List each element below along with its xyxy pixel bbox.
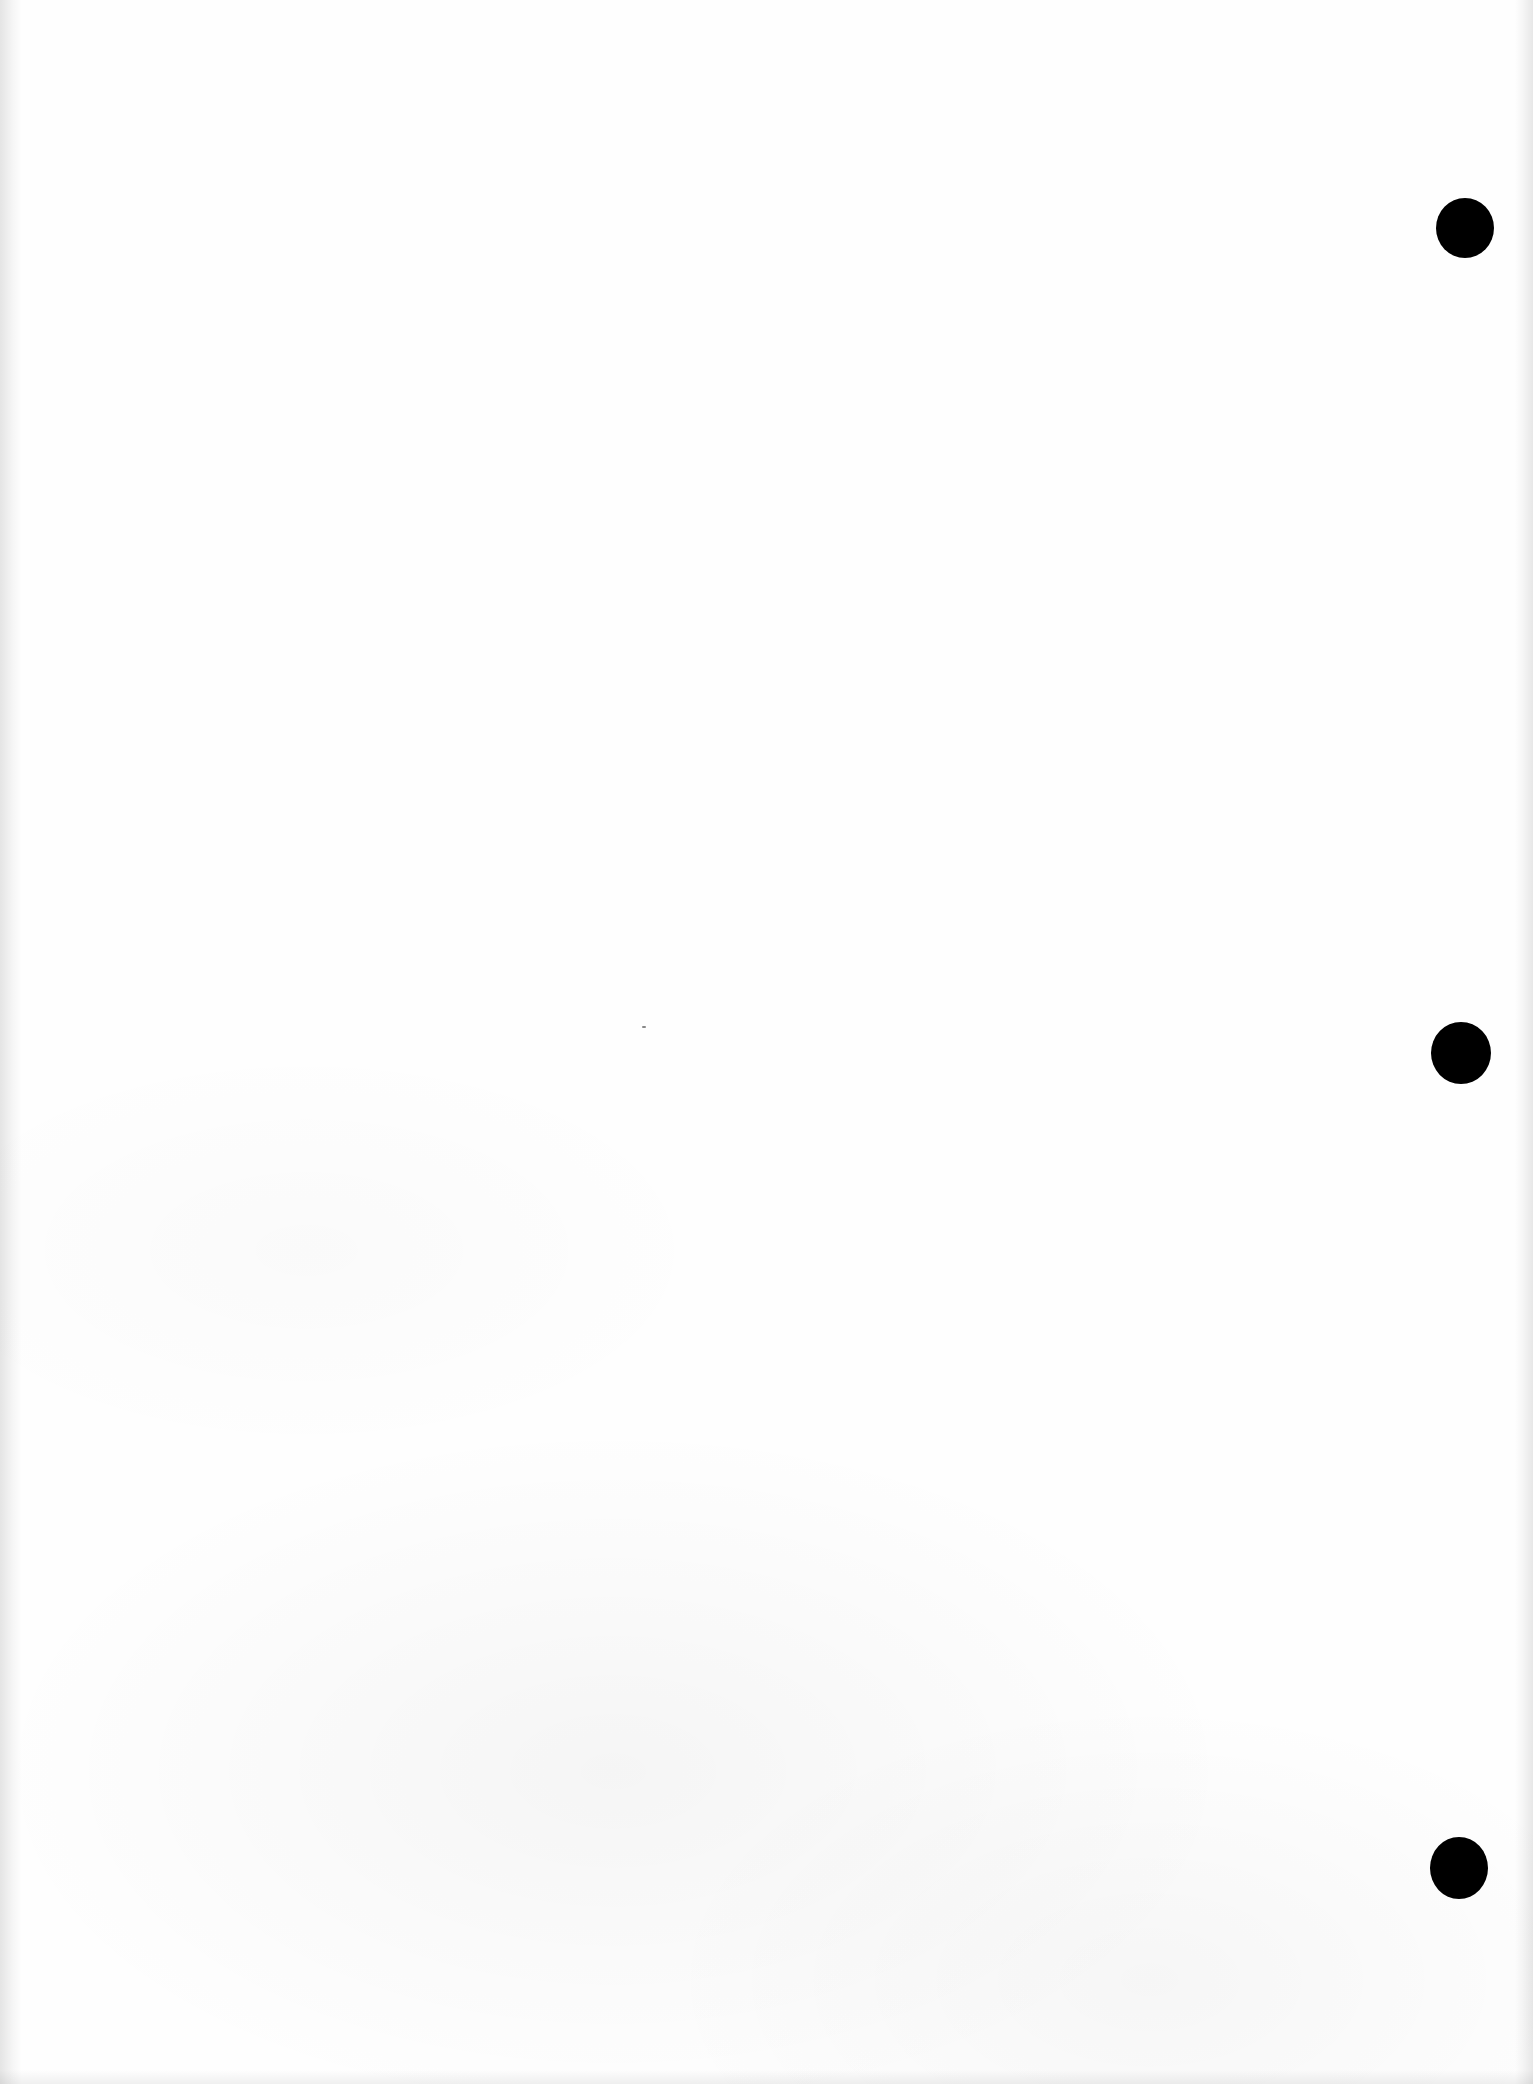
scan-edge-shadow-right	[1515, 0, 1533, 2084]
paper-speck	[642, 1026, 646, 1028]
punch-hole-icon	[1431, 1022, 1491, 1084]
scan-edge-shadow-bottom	[0, 2070, 1533, 2084]
punch-hole-icon	[1430, 1837, 1488, 1899]
scanned-page	[0, 0, 1533, 2084]
scan-edge-shadow-left	[0, 0, 22, 2084]
punch-hole-icon	[1436, 198, 1494, 258]
